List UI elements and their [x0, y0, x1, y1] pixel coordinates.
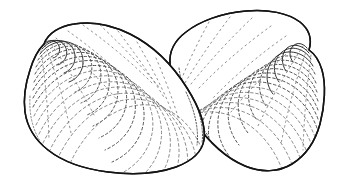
illustration-canvas [0, 0, 344, 196]
bivalve-shell-figure [0, 0, 344, 196]
